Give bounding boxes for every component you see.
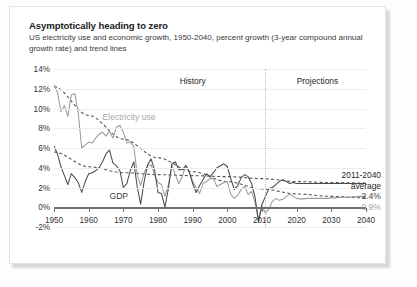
y-axis-label: 6% [38,144,50,153]
y-axis-label: 14% [34,65,50,74]
x-axis-label: 2000 [218,216,236,225]
average-callout: 2011-2040 average 2.4% 0.9% [342,170,381,212]
y-axis-label: 4% [38,163,50,172]
x-axis-tick [158,208,159,212]
page-background: Asymptotically heading to zero US electr… [0,0,417,287]
electricity-use-series-label: Electricity use [103,112,156,122]
x-axis-tick [89,208,90,212]
plot-area: 14%12%10%8%6%4%2%0%-2% 19501960197019801… [54,69,366,227]
x-axis-label: 1960 [80,216,98,225]
grid-line [54,128,366,129]
x-axis-tick [331,208,332,212]
x-axis-tick [227,208,228,212]
x-axis-label: 2040 [357,216,375,225]
x-axis-label: 2030 [322,216,340,225]
y-axis-label: 2% [38,183,50,192]
trend-line [54,87,366,198]
history-label: History [180,76,206,86]
y-axis-label: 0% [38,203,50,212]
gdp-average-value: 2.4% [342,191,381,202]
grid-line [54,227,366,228]
gdp-series-label: GDP [109,191,128,201]
projections-label: Projections [297,76,338,86]
data-series-line [54,85,366,219]
x-axis-tick [54,208,55,212]
grid-line [54,109,366,110]
y-axis-label: 10% [34,104,50,113]
x-axis-label: 1990 [184,216,202,225]
y-axis-label: 12% [34,84,50,93]
grid-line [54,69,366,70]
grid-line [54,148,366,149]
grid-line [54,188,366,189]
x-axis-tick [123,208,124,212]
grid-line [54,168,366,169]
x-axis-tick [193,208,194,212]
average-heading-line2: average [342,181,381,192]
y-axis-label: 8% [38,124,50,133]
electricity-average-value: 0.9% [342,202,381,213]
x-axis-label: 1980 [149,216,167,225]
x-axis-ticks [54,208,366,213]
chart-subtitle: US electricity use and economic growth, … [29,33,374,54]
x-axis-label: 1950 [45,216,63,225]
x-axis-label: 2020 [288,216,306,225]
average-heading-line1: 2011-2040 [342,170,381,181]
history-projection-divider [265,69,266,227]
x-axis-tick [297,208,298,212]
page-title: Asymptotically heading to zero [29,20,168,31]
x-axis-tick [262,208,263,212]
x-axis-label: 1970 [114,216,132,225]
chart-card: Asymptotically heading to zero US electr… [9,6,386,264]
x-axis-label: 2010 [253,216,271,225]
grid-line [54,89,366,90]
